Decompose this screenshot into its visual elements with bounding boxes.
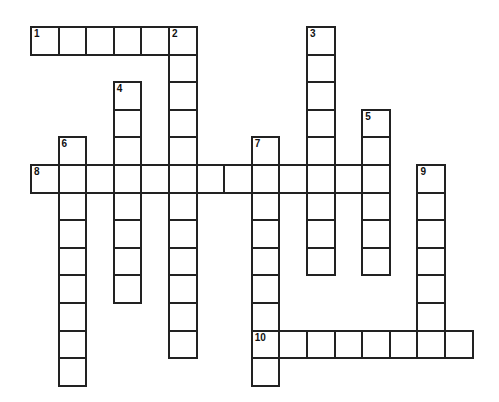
crossword-cell[interactable] <box>251 219 281 249</box>
crossword-cell[interactable] <box>196 164 226 194</box>
crossword-cell[interactable]: 5 <box>361 109 391 139</box>
crossword-cell[interactable] <box>361 219 391 249</box>
crossword-cell[interactable] <box>306 330 336 360</box>
clue-number: 9 <box>420 166 426 177</box>
clue-number: 7 <box>255 138 261 149</box>
clue-number: 2 <box>172 28 178 39</box>
crossword-cell[interactable] <box>251 164 281 194</box>
crossword-cell[interactable] <box>251 247 281 277</box>
crossword-cell[interactable] <box>278 330 308 360</box>
crossword-cell[interactable] <box>444 330 474 360</box>
crossword-cell[interactable] <box>113 247 143 277</box>
crossword-cell[interactable] <box>306 81 336 111</box>
crossword-cell[interactable] <box>361 192 391 222</box>
crossword-cell[interactable] <box>58 192 88 222</box>
crossword-cell[interactable] <box>306 109 336 139</box>
crossword-cell[interactable] <box>85 164 115 194</box>
crossword-cell[interactable]: 3 <box>306 26 336 56</box>
crossword-cell[interactable] <box>306 192 336 222</box>
crossword-cell[interactable] <box>306 219 336 249</box>
crossword-cell[interactable] <box>416 219 446 249</box>
crossword-cell[interactable] <box>58 274 88 304</box>
crossword-cell[interactable] <box>306 136 336 166</box>
crossword-cell[interactable] <box>168 81 198 111</box>
crossword-cell[interactable] <box>58 302 88 332</box>
crossword-cell[interactable]: 9 <box>416 164 446 194</box>
crossword-cell[interactable] <box>168 109 198 139</box>
crossword-cell[interactable] <box>334 164 364 194</box>
crossword-cell[interactable] <box>278 164 308 194</box>
crossword-cell[interactable] <box>251 274 281 304</box>
crossword-cell[interactable] <box>168 192 198 222</box>
crossword-cell[interactable]: 2 <box>168 26 198 56</box>
crossword-cell[interactable] <box>140 164 170 194</box>
clue-number: 3 <box>310 28 316 39</box>
crossword-cell[interactable] <box>58 357 88 387</box>
clue-number: 6 <box>62 138 68 149</box>
crossword-cell[interactable] <box>168 136 198 166</box>
crossword-cell[interactable]: 1 <box>30 26 60 56</box>
crossword-cell[interactable] <box>223 164 253 194</box>
clue-number: 8 <box>34 166 40 177</box>
crossword-cell[interactable] <box>140 26 170 56</box>
crossword-cell[interactable] <box>113 192 143 222</box>
crossword-cell[interactable]: 4 <box>113 81 143 111</box>
crossword-cell[interactable] <box>251 357 281 387</box>
crossword-cell[interactable] <box>416 192 446 222</box>
crossword-cell[interactable] <box>168 164 198 194</box>
crossword-cell[interactable] <box>306 247 336 277</box>
clue-number: 1 <box>34 28 40 39</box>
crossword-cell[interactable] <box>251 302 281 332</box>
clue-number: 5 <box>365 111 371 122</box>
crossword-cell[interactable] <box>113 164 143 194</box>
crossword-cell[interactable] <box>361 247 391 277</box>
crossword-cell[interactable] <box>334 330 364 360</box>
crossword-cell[interactable] <box>168 302 198 332</box>
crossword-cell[interactable] <box>389 330 419 360</box>
crossword-cell[interactable] <box>58 26 88 56</box>
crossword-cell[interactable] <box>416 302 446 332</box>
crossword-grid: 12345671089 <box>0 0 499 402</box>
crossword-cell[interactable] <box>58 219 88 249</box>
crossword-cell[interactable]: 6 <box>58 136 88 166</box>
crossword-cell[interactable] <box>306 164 336 194</box>
crossword-cell[interactable] <box>168 274 198 304</box>
crossword-cell[interactable] <box>113 109 143 139</box>
crossword-cell[interactable] <box>113 274 143 304</box>
crossword-cell[interactable]: 7 <box>251 136 281 166</box>
crossword-cell[interactable] <box>113 219 143 249</box>
crossword-cell[interactable]: 8 <box>30 164 60 194</box>
crossword-cell[interactable] <box>58 247 88 277</box>
crossword-cell[interactable] <box>361 330 391 360</box>
crossword-cell[interactable] <box>416 274 446 304</box>
crossword-cell[interactable] <box>416 330 446 360</box>
crossword-cell[interactable]: 10 <box>251 330 281 360</box>
crossword-cell[interactable] <box>306 54 336 84</box>
crossword-cell[interactable] <box>85 26 115 56</box>
clue-number: 4 <box>117 83 123 94</box>
crossword-cell[interactable] <box>168 219 198 249</box>
crossword-cell[interactable] <box>251 192 281 222</box>
clue-number: 10 <box>255 332 266 343</box>
crossword-cell[interactable] <box>361 136 391 166</box>
crossword-cell[interactable] <box>168 54 198 84</box>
crossword-cell[interactable] <box>113 136 143 166</box>
crossword-cell[interactable] <box>168 247 198 277</box>
crossword-cell[interactable] <box>58 164 88 194</box>
crossword-cell[interactable] <box>58 330 88 360</box>
crossword-cell[interactable] <box>361 164 391 194</box>
crossword-cell[interactable] <box>113 26 143 56</box>
crossword-cell[interactable] <box>416 247 446 277</box>
crossword-cell[interactable] <box>168 330 198 360</box>
